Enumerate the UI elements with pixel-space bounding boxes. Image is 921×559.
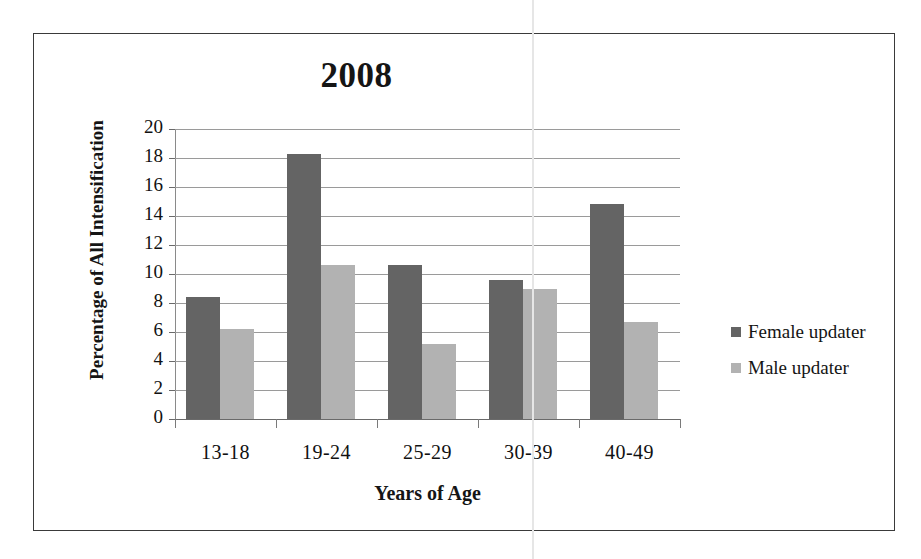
legend-label-male: Male updater bbox=[748, 358, 849, 377]
y-tick-mark bbox=[169, 158, 175, 159]
bar-male-40-49 bbox=[624, 322, 658, 419]
y-tick-label: 4 bbox=[123, 348, 163, 370]
y-tick-label: 12 bbox=[123, 232, 163, 254]
x-tick-mark bbox=[377, 419, 378, 428]
y-tick-mark bbox=[169, 187, 175, 188]
x-category-label: 19-24 bbox=[276, 441, 377, 464]
y-tick-mark bbox=[169, 303, 175, 304]
chart-title: 2008 bbox=[34, 56, 679, 96]
y-tick-label: 8 bbox=[123, 290, 163, 312]
y-tick-label: 16 bbox=[123, 174, 163, 196]
gridline bbox=[175, 187, 680, 188]
y-tick-mark bbox=[169, 216, 175, 217]
bar-female-30-39 bbox=[489, 280, 523, 419]
y-tick-mark bbox=[169, 361, 175, 362]
bar-male-19-24 bbox=[321, 265, 355, 419]
x-category-label: 40-49 bbox=[579, 441, 680, 464]
legend-swatch-male-icon bbox=[731, 363, 741, 373]
x-category-label: 25-29 bbox=[377, 441, 478, 464]
bar-male-25-29 bbox=[422, 344, 456, 419]
plot-area: 13-1819-2425-2930-3940-49 bbox=[175, 129, 680, 419]
bar-female-25-29 bbox=[388, 265, 422, 419]
y-tick-label: 10 bbox=[123, 261, 163, 283]
gridline bbox=[175, 158, 680, 159]
gridline bbox=[175, 129, 680, 130]
chart-frame: 2008 Percentage of All Intensification 1… bbox=[33, 33, 895, 531]
x-category-label: 13-18 bbox=[175, 441, 276, 464]
bar-female-19-24 bbox=[287, 154, 321, 419]
y-tick-label: 20 bbox=[123, 116, 163, 138]
legend-item-female: Female updater bbox=[731, 322, 866, 341]
x-tick-mark bbox=[680, 419, 681, 428]
bar-female-40-49 bbox=[590, 204, 624, 419]
y-tick-label: 6 bbox=[123, 319, 163, 341]
y-tick-label: 0 bbox=[123, 406, 163, 428]
x-tick-mark bbox=[478, 419, 479, 428]
bar-male-30-39 bbox=[523, 289, 557, 420]
y-tick-label: 18 bbox=[123, 145, 163, 167]
x-tick-mark bbox=[276, 419, 277, 428]
bar-male-13-18 bbox=[220, 329, 254, 419]
y-tick-mark bbox=[169, 274, 175, 275]
y-axis-title: Percentage of All Intensification bbox=[86, 95, 108, 405]
legend-label-female: Female updater bbox=[748, 322, 866, 341]
x-axis-title: Years of Age bbox=[175, 482, 680, 505]
legend-item-male: Male updater bbox=[731, 358, 866, 377]
y-tick-mark bbox=[169, 390, 175, 391]
y-tick-mark bbox=[169, 245, 175, 246]
x-tick-mark bbox=[175, 419, 176, 428]
bar-female-13-18 bbox=[186, 297, 220, 419]
x-tick-mark bbox=[579, 419, 580, 428]
y-tick-mark bbox=[169, 129, 175, 130]
gridline bbox=[175, 419, 680, 420]
x-category-label: 30-39 bbox=[478, 441, 579, 464]
y-tick-label: 2 bbox=[123, 377, 163, 399]
y-tick-mark bbox=[169, 332, 175, 333]
legend-swatch-female-icon bbox=[731, 327, 741, 337]
y-tick-label: 14 bbox=[123, 203, 163, 225]
chart-legend: Female updater Male updater bbox=[731, 322, 866, 394]
